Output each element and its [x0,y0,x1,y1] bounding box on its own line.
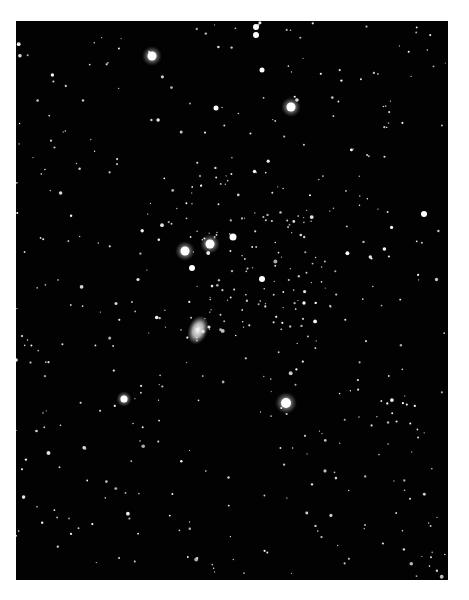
faint-star [369,255,372,258]
faint-star [44,375,46,377]
faint-star [312,263,314,265]
faint-star [372,286,374,288]
faint-star [185,202,187,204]
faint-star [286,220,288,222]
faint-star [180,131,183,134]
faint-star [209,297,210,298]
faint-star [196,286,197,287]
faint-star [61,343,63,345]
faint-star [42,238,44,240]
faint-star [264,550,266,552]
faint-star [227,300,228,301]
faint-star [191,203,192,204]
faint-star [115,302,118,305]
faint-star [436,570,438,572]
faint-star [298,275,300,277]
faint-star [46,410,47,411]
faint-star [299,37,301,39]
faint-star [118,88,119,89]
faint-star [241,309,243,311]
faint-star [230,297,232,299]
faint-star [387,443,388,444]
faint-star [414,405,416,407]
faint-star [424,432,425,433]
faint-star [56,517,58,519]
faint-star [108,337,111,340]
faint-star [235,335,237,337]
faint-star [364,528,365,529]
faint-star [263,376,264,377]
faint-star [84,448,86,450]
faint-star [191,186,193,188]
faint-star [359,361,361,363]
faint-star [289,325,291,327]
faint-star [329,210,330,211]
faint-star [96,562,97,563]
faint-star [146,269,147,270]
faint-star [302,58,303,59]
faint-star [242,321,244,323]
faint-star [300,325,302,327]
faint-star [289,224,291,226]
bright-star [148,52,157,61]
faint-star [320,536,322,538]
faint-star [47,451,51,455]
faint-star [158,420,160,422]
faint-star [373,72,375,74]
faint-star [196,28,198,30]
faint-star [390,226,393,229]
faint-star [321,433,322,434]
faint-star [94,151,95,152]
faint-star [59,191,63,195]
faint-star [436,517,437,518]
faint-star [312,22,314,24]
faint-star [409,498,411,500]
faint-star [218,203,220,205]
faint-star [59,466,61,468]
faint-star [444,554,446,556]
faint-star [16,358,18,362]
faint-star [125,492,127,494]
faint-star [323,469,326,472]
faint-star [358,416,359,417]
faint-star [30,344,32,346]
faint-star [294,96,296,98]
faint-star [291,573,292,574]
faint-star [180,460,183,463]
faint-star [210,309,211,310]
faint-star [332,115,334,117]
faint-star [410,562,414,566]
faint-star [345,251,349,255]
faint-star [105,497,107,499]
faint-star [118,319,120,321]
faint-star [402,402,404,404]
faint-star [227,180,229,182]
faint-star [86,480,88,482]
faint-star [279,211,281,213]
faint-star [287,226,289,228]
faint-star [223,320,225,322]
faint-star [216,232,218,234]
faint-star [32,157,33,158]
faint-star [388,111,390,113]
faint-star [390,398,394,402]
faint-star [19,123,20,124]
faint-star [357,389,359,391]
faint-star [305,512,308,515]
faint-star [252,267,253,268]
faint-star [417,274,419,276]
faint-star [163,177,165,179]
faint-star [348,558,350,560]
faint-star [150,119,152,121]
faint-star [112,345,114,347]
faint-star [255,246,257,248]
faint-star [431,468,433,470]
faint-star [230,46,232,48]
faint-star [45,361,47,363]
faint-star [229,233,231,235]
faint-star [164,309,166,311]
faint-star [345,190,347,192]
faint-star [190,236,192,238]
faint-star [258,303,260,305]
faint-star [270,415,272,417]
